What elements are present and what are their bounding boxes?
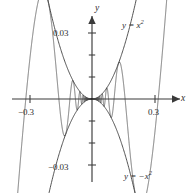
curve-label-upper-parabola: y = x2	[122, 19, 144, 30]
curve-label-upper-base: y = x	[122, 20, 141, 30]
y-axis-tick-label-positive: 0.03	[53, 29, 68, 38]
y-axis-name-label: y	[95, 4, 99, 14]
y-axis-arrow-icon	[88, 16, 95, 24]
x-axis-arrow-icon	[172, 95, 180, 102]
x-axis-name-label: x	[181, 94, 185, 104]
y-axis-tick-label-negative: −0.03	[48, 163, 68, 172]
curve-label-lower-exponent: 2	[149, 169, 152, 176]
curve-label-upper-exponent: 2	[141, 18, 144, 25]
x-axis-tick-label-positive: 0.3	[148, 108, 159, 117]
plot-canvas	[0, 0, 194, 193]
squeeze-theorem-figure: 0.03 −0.03 −0.3 0.3 y x y = x2 y = −x2	[0, 0, 194, 193]
curve-label-lower-parabola: y = −x2	[124, 170, 152, 181]
x-axis-tick-label-negative: −0.3	[18, 108, 34, 117]
curve-label-lower-base: y = −x	[124, 171, 149, 181]
